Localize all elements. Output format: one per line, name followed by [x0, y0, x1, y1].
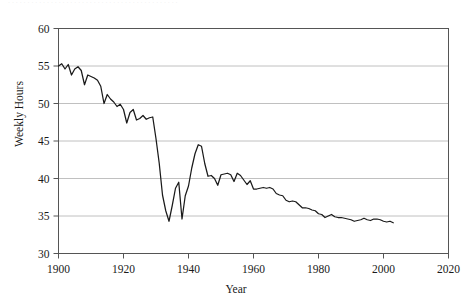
figure-weekly-hours: · · · · · · · · · · · · · · · · · · · · … — [0, 0, 472, 304]
x-tick-label: 1900 — [47, 263, 70, 275]
x-tick-label: 1940 — [177, 263, 200, 275]
x-tick-label: 2020 — [437, 263, 460, 275]
x-tick-label: 1920 — [112, 263, 135, 275]
x-tick-label: 1980 — [307, 263, 330, 275]
x-tick-label: 2000 — [372, 263, 395, 275]
y-tick-label: 60 — [38, 23, 50, 35]
x-axis-title: Year — [0, 283, 472, 295]
y-tick-label: 35 — [38, 210, 50, 222]
y-tick-label: 50 — [38, 98, 50, 110]
y-axis-title: Weekly Hours — [13, 69, 25, 159]
y-tick-label: 40 — [38, 173, 50, 185]
line-chart-weekly-hours: 3035404550556019001920194019601980200020… — [0, 0, 472, 304]
y-tick-label: 55 — [38, 60, 50, 72]
y-tick-label: 45 — [38, 135, 50, 147]
data-series-line — [59, 64, 394, 223]
x-tick-label: 1960 — [242, 263, 265, 275]
y-tick-label: 30 — [38, 248, 50, 260]
